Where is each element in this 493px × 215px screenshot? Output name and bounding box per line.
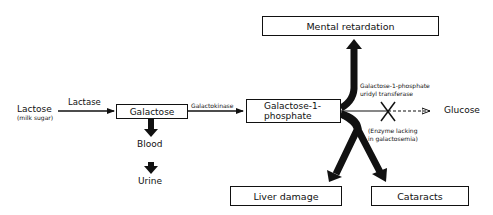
galactokinase-label: Galactokinase: [191, 102, 233, 109]
urine-arrow: [144, 166, 158, 174]
galactose-1-phosphate-box: Galactose-1- phosphate: [246, 99, 341, 123]
liver-damage-box: Liver damage: [230, 186, 342, 206]
galactose-box: Galactose: [116, 104, 188, 119]
lactose-label: Lactose: [17, 104, 52, 114]
lactase-label: Lactase: [68, 97, 101, 107]
mental-retardation-arrow: [341, 48, 354, 108]
g1p-line2: phosphate: [264, 111, 312, 121]
urine-label: Urine: [138, 176, 162, 186]
mental-retardation-box: Mental retardation: [262, 16, 439, 36]
glucose-label: Glucose: [444, 105, 480, 115]
lactose-note: (milk sugar): [17, 114, 53, 121]
blood-arrow: [144, 129, 158, 137]
cataracts-arrow: [341, 114, 380, 172]
enzyme-lacking-note: (Enzyme lacking in galactosemia): [368, 127, 418, 143]
blood-label: Blood: [137, 139, 162, 149]
g1p-line1: Galactose-1-: [264, 101, 321, 111]
transferase-label: Galactose-1-phosphate uridyl transferase: [360, 82, 430, 98]
cataracts-box: Cataracts: [371, 186, 469, 206]
galactose-label: Galactose: [130, 107, 175, 117]
